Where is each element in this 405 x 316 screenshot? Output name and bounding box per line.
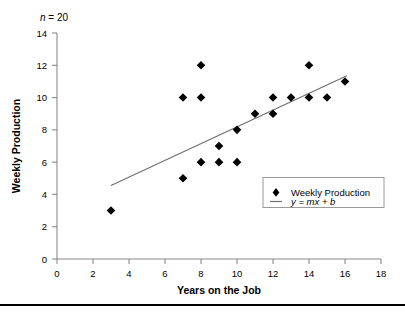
data-point-marker [179,93,188,102]
x-tick-label: 2 [90,268,95,279]
y-tick-label: 14 [36,28,47,39]
data-point-marker [269,93,278,102]
y-axis-title: Weekly Production [10,99,22,193]
x-tick-label: 4 [126,268,131,279]
y-tick-label: 8 [42,124,47,135]
data-point-marker [269,109,278,118]
regression-line-group [111,76,347,186]
scatter-plot-figure: 14 12 10 8 6 4 2 0 0 2 4 6 [0,0,405,316]
x-tick-label: 16 [340,268,351,279]
y-tick-marks [52,33,57,259]
x-tick-label: 18 [376,268,387,279]
x-tick-label: 10 [232,268,243,279]
data-point-marker [233,158,242,167]
data-point-marker [215,158,224,167]
data-point-marker [107,206,116,215]
y-tick-label: 10 [36,92,47,103]
sample-size-value: = 20 [46,12,69,23]
legend: Weekly Production y = mx + b [263,178,384,208]
legend-item-label-equation: y = mx + b [290,196,335,207]
regression-line [111,76,347,186]
y-tick-label: 12 [36,60,47,71]
x-tick-label: 12 [268,268,279,279]
y-tick-label: 6 [42,157,47,168]
x-tick-marks [57,259,381,264]
y-tick-label: 2 [42,221,47,232]
x-tick-label: 0 [54,268,59,279]
data-point-marker [197,61,206,70]
data-point-marker [179,174,188,183]
x-axis-title: Years on the Job [177,284,261,296]
data-point-marker [197,93,206,102]
y-tick-labels: 14 12 10 8 6 4 2 0 [36,28,47,265]
data-point-marker [323,93,332,102]
data-point-marker [215,142,224,151]
chart-canvas: 14 12 10 8 6 4 2 0 0 2 4 6 [0,0,405,316]
x-tick-labels: 0 2 4 6 8 10 12 14 16 18 [54,268,386,279]
x-tick-label: 14 [304,268,315,279]
y-tick-label: 4 [42,189,47,200]
x-tick-label: 6 [162,268,167,279]
data-point-marker [233,126,242,135]
data-point-marker [305,61,314,70]
y-tick-label: 0 [42,254,47,265]
x-tick-label: 8 [198,268,203,279]
sample-size-annotation: n = 20 [40,12,69,23]
data-point-marker [197,158,206,167]
